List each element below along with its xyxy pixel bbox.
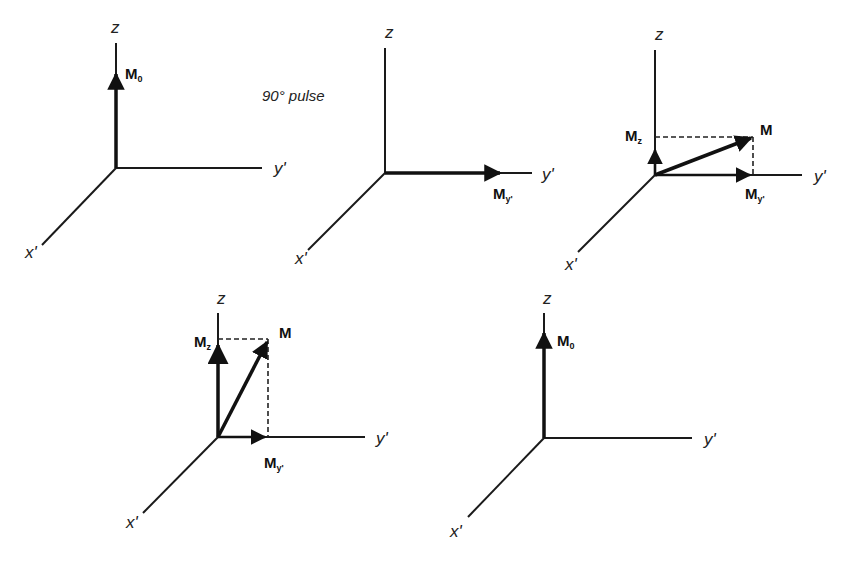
m-vector-arrow <box>218 342 267 437</box>
mz-label-sub: z <box>638 136 643 146</box>
panel-3-relaxation-early <box>578 50 802 252</box>
m0-label-main: M <box>125 65 138 82</box>
z-axis-label: z <box>217 290 226 307</box>
panel-5-back-to-equilibrium <box>468 313 692 517</box>
z-axis-label: z <box>655 26 664 43</box>
y-axis-label: y' <box>274 160 286 177</box>
y-axis-label: y' <box>704 431 716 448</box>
m0-label-sub: 0 <box>570 341 575 351</box>
x-axis-label: x' <box>565 256 577 273</box>
y-axis-label: y' <box>542 166 554 183</box>
m0-label-sub: 0 <box>138 74 143 84</box>
y-axis-label: y' <box>814 168 826 185</box>
y-axis-label: y' <box>376 430 388 447</box>
my-label-main: M <box>493 185 506 202</box>
mz-label: Mz <box>625 128 642 146</box>
my-label-main: M <box>745 185 758 202</box>
my-label-main: M <box>264 454 277 471</box>
m-vector-arrow <box>655 138 751 175</box>
pulse-label: 90° pulse <box>262 88 325 103</box>
my-label-sub: y' <box>277 463 284 473</box>
x-axis <box>578 175 655 252</box>
x-axis-label: x' <box>450 523 462 540</box>
m0-label: M0 <box>557 333 575 351</box>
magnetization-diagram <box>0 0 845 562</box>
x-axis-label: x' <box>295 250 307 267</box>
x-axis <box>42 168 116 245</box>
my-label: My' <box>745 186 765 204</box>
panel-2-after-90-pulse <box>308 48 532 250</box>
my-label-sub: y' <box>506 194 513 204</box>
my-label-sub: y' <box>758 194 765 204</box>
mz-label-main: M <box>194 333 207 350</box>
m-label: M <box>760 122 773 137</box>
panel-1-equilibrium <box>42 43 262 245</box>
m-label: M <box>279 325 292 340</box>
mz-label-main: M <box>625 127 638 144</box>
x-axis <box>308 173 385 250</box>
panel-4-relaxation-late <box>143 313 365 513</box>
x-axis-label: x' <box>25 244 37 261</box>
x-axis-label: x' <box>126 514 138 531</box>
my-label: My' <box>493 186 513 204</box>
x-axis <box>468 438 544 517</box>
mz-label-sub: z <box>207 342 212 352</box>
mz-label: Mz <box>194 334 211 352</box>
z-axis-label: z <box>111 19 120 36</box>
m0-label: M0 <box>125 66 143 84</box>
z-axis-label: z <box>385 24 394 41</box>
my-label: My' <box>264 455 284 473</box>
x-axis <box>143 437 218 513</box>
m0-label-main: M <box>557 332 570 349</box>
z-axis-label: z <box>543 290 552 307</box>
